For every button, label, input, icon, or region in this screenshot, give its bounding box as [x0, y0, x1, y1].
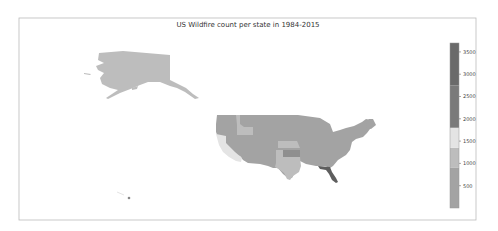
region-kansas: [283, 150, 300, 157]
colorbar-tick-label: 3000: [463, 71, 476, 77]
region-hawaii: [128, 197, 131, 200]
chart-title: US Wildfire count per state in 1984-2015: [176, 21, 319, 29]
colorbar-tick-label: 2000: [463, 116, 476, 122]
colorbar-tick-label: 3500: [463, 49, 476, 55]
colorbar-tick-label: 500: [463, 183, 473, 189]
colorbar-band: [450, 128, 459, 148]
colorbar-band: [450, 168, 459, 208]
colorbar-tick-label: 2500: [463, 93, 476, 99]
colorbar-band: [450, 85, 459, 127]
region-nebraska: [278, 141, 300, 148]
colorbar-tick-label: 1000: [463, 160, 476, 166]
figure: US Wildfire count per state in 1984-2015…: [0, 0, 498, 231]
region-new-mexico: [276, 150, 283, 163]
colorbar-band: [450, 43, 459, 85]
colorbar-tick-label: 1500: [463, 138, 476, 144]
colorbar-band: [450, 148, 459, 168]
